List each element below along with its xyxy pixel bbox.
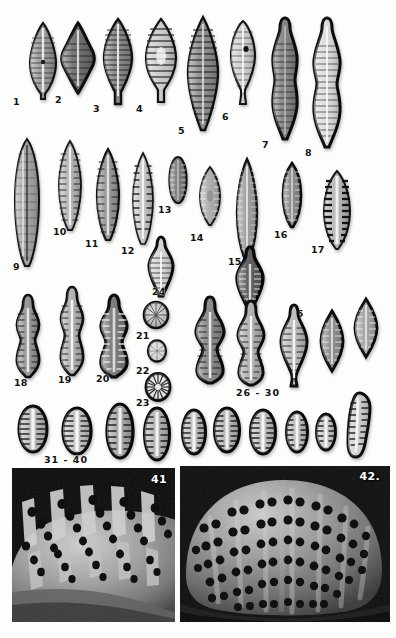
figure-2: [58, 22, 98, 94]
sem-panel-42-label: 42.: [360, 470, 380, 483]
figure-label-9: 9: [13, 262, 20, 272]
figure-label-11: 11: [85, 239, 99, 249]
figure-16: [280, 162, 304, 228]
figure-label-10: 10: [53, 227, 67, 237]
figure-33: [104, 402, 136, 460]
figure-label-8: 8: [305, 148, 312, 158]
figure-label-19: 19: [58, 375, 72, 385]
figure-1: [26, 22, 60, 100]
figure-28: [278, 304, 310, 388]
figure-label-31-40: 31 - 40: [44, 455, 88, 465]
figure-18: [12, 294, 44, 378]
figure-39: [314, 412, 338, 452]
figure-7: [268, 16, 302, 142]
figure-22: [146, 339, 168, 363]
figure-32: [60, 406, 94, 456]
figure-4: [142, 18, 180, 104]
figure-label-4: 4: [136, 104, 143, 114]
figure-label-20: 20: [96, 374, 110, 384]
figure-17: [320, 170, 354, 250]
sem-42-image: [180, 466, 390, 622]
figure-12: [130, 152, 156, 246]
figure-3: [100, 18, 136, 106]
figure-label-2: 2: [55, 95, 62, 105]
figure-11: [94, 148, 122, 242]
figure-36: [212, 406, 242, 454]
figure-5: [184, 16, 222, 132]
figure-34: [142, 406, 172, 462]
figure-37: [248, 408, 278, 456]
figure-9: [10, 138, 44, 268]
figure-8: [310, 16, 344, 150]
figure-14: [197, 166, 223, 226]
figure-38: [284, 410, 310, 454]
figure-21: [142, 300, 170, 330]
figure-10: [56, 140, 84, 232]
figure-26: [192, 296, 228, 384]
figure-label-18: 18: [14, 378, 28, 388]
figure-6: [226, 20, 260, 108]
figure-label-7: 7: [262, 140, 269, 150]
figure-30: [352, 298, 380, 358]
sem-41-image: [12, 468, 175, 622]
figure-label-1: 1: [13, 97, 20, 107]
figure-label-26-30: 26 - 30: [236, 388, 280, 398]
figure-31: [16, 404, 50, 454]
figure-label-6: 6: [222, 112, 229, 122]
figure-label-13: 13: [158, 205, 172, 215]
figure-label-14: 14: [190, 233, 204, 243]
figure-19: [56, 286, 88, 376]
figure-27: [234, 300, 268, 386]
figure-label-3: 3: [93, 104, 100, 114]
figure-13: [167, 155, 189, 205]
figure-label-12: 12: [121, 246, 135, 256]
taxonomic-plate: 1 2 3: [0, 0, 396, 638]
figure-40: [344, 392, 374, 458]
figure-label-24: 24: [152, 287, 166, 297]
sem-panel-41-label: 41: [151, 473, 167, 486]
figure-20: [96, 294, 132, 378]
figure-35: [180, 408, 208, 456]
figure-29: [318, 310, 346, 372]
sem-panel-41: 41: [12, 468, 175, 622]
figure-label-17: 17: [311, 245, 325, 255]
sem-panel-42: 42.: [180, 466, 390, 622]
figure-label-16: 16: [274, 230, 288, 240]
figure-label-5: 5: [178, 126, 185, 136]
